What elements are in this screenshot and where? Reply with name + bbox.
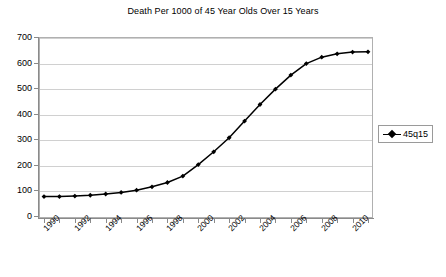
data-point-marker xyxy=(134,188,139,193)
series-line xyxy=(44,52,368,197)
x-axis-tick-mark xyxy=(368,219,369,223)
data-point-marker xyxy=(119,190,124,195)
line-series-svg xyxy=(40,38,372,217)
x-axis-tick-mark xyxy=(275,219,276,223)
chart-title: Death Per 1000 of 45 Year Olds Over 15 Y… xyxy=(0,6,446,16)
chart-legend[interactable]: 45q15 xyxy=(378,125,433,143)
x-axis-tick-mark xyxy=(337,219,338,223)
data-point-marker xyxy=(42,194,47,199)
y-axis-tick-label: 100 xyxy=(0,185,32,195)
data-point-marker xyxy=(319,55,324,60)
y-axis-tick-label: 700 xyxy=(0,32,32,42)
y-axis-tick-mark xyxy=(34,165,39,166)
x-axis-tick-mark xyxy=(152,219,153,223)
y-axis-tick-mark xyxy=(34,37,39,38)
data-point-marker xyxy=(350,50,355,55)
y-axis-tick-mark xyxy=(34,216,39,217)
x-axis-tick-mark xyxy=(183,219,184,223)
x-axis-tick-mark xyxy=(59,219,60,223)
y-axis-tick-label: 0 xyxy=(0,211,32,221)
data-point-marker xyxy=(72,194,77,199)
data-point-marker xyxy=(57,194,62,199)
x-axis-tick-mark xyxy=(245,219,246,223)
y-axis-tick-label: 600 xyxy=(0,58,32,68)
y-axis-tick-label: 500 xyxy=(0,83,32,93)
y-axis-tick-label: 300 xyxy=(0,134,32,144)
y-axis-tick-label: 400 xyxy=(0,109,32,119)
y-axis-tick-mark xyxy=(34,139,39,140)
data-point-marker xyxy=(165,180,170,185)
y-axis-tick-label: 200 xyxy=(0,160,32,170)
legend-item-label: 45q15 xyxy=(403,129,428,139)
y-axis-tick-mark xyxy=(34,190,39,191)
y-axis-tick-labels: 0100200300400500600700 xyxy=(0,37,32,218)
diamond-line-marker-icon xyxy=(383,129,401,139)
x-axis-tick-mark xyxy=(306,219,307,223)
x-axis-tick-mark xyxy=(121,219,122,223)
x-axis-tick-mark xyxy=(214,219,215,223)
y-axis-tick-mark xyxy=(34,88,39,89)
x-axis-tick-mark xyxy=(90,219,91,223)
data-point-marker xyxy=(335,51,340,56)
plot-area xyxy=(39,37,373,218)
data-point-marker xyxy=(88,193,93,198)
data-point-marker xyxy=(103,192,108,197)
y-axis-tick-mark xyxy=(34,114,39,115)
data-point-marker xyxy=(366,49,371,54)
chart-screenshot: Death Per 1000 of 45 Year Olds Over 15 Y… xyxy=(0,0,446,277)
data-point-marker xyxy=(150,184,155,189)
y-axis-tick-mark xyxy=(34,63,39,64)
